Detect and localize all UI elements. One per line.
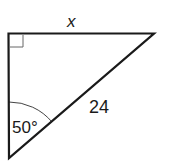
angle-label: 50° [12, 118, 38, 137]
right-angle-marker [10, 35, 23, 47]
hypotenuse-label: 24 [89, 97, 109, 117]
triangle-outline [9, 34, 155, 159]
side-label-x: x [66, 12, 76, 31]
triangle-figure: x 24 50° [0, 0, 172, 167]
diagram-canvas: x 24 50° [0, 0, 172, 167]
